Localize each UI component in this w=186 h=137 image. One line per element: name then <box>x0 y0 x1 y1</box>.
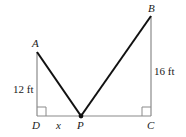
geometry-diagram: A B C D P 12 ft 16 ft x <box>0 0 186 137</box>
right-angle-d-icon <box>37 107 46 116</box>
label-dp-length: x <box>55 119 61 131</box>
wire-ap <box>37 52 81 116</box>
label-bc-length: 16 ft <box>154 65 174 77</box>
right-angle-c-icon <box>142 107 151 116</box>
label-ad-length: 12 ft <box>13 83 33 95</box>
label-c: C <box>147 119 155 131</box>
label-p: P <box>76 119 84 131</box>
label-b: B <box>148 2 155 14</box>
label-d: D <box>31 119 40 131</box>
label-a: A <box>31 37 39 49</box>
wire-bp <box>81 16 151 116</box>
point-p-dot <box>79 114 84 119</box>
